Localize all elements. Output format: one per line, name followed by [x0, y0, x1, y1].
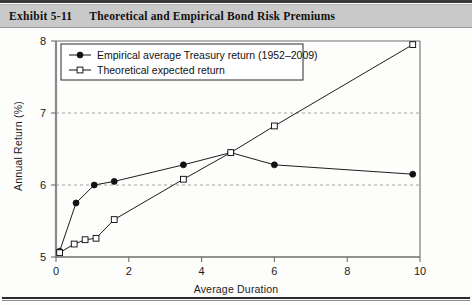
data-point-theoretical-2: [82, 237, 88, 243]
data-point-empirical-7: [410, 171, 416, 177]
x-tick-label-0: 0: [53, 265, 59, 277]
series-line-0: [60, 153, 413, 252]
legend-label-1: Theoretical expected return: [97, 64, 225, 76]
data-point-theoretical-1: [71, 241, 77, 247]
x-axis-title: Average Duration: [0, 283, 472, 295]
data-point-theoretical-5: [181, 176, 187, 182]
x-tick-label-6: 6: [271, 265, 277, 277]
chart-legend: Empirical average Treasury return (1952–…: [61, 44, 318, 80]
data-point-empirical-3: [111, 178, 117, 184]
y-tick-label-6: 6: [40, 179, 46, 191]
y-tick-label-7: 7: [40, 107, 46, 119]
top-divider-rule: [0, 0, 472, 3]
exhibit-figure: Exhibit 5-11 Theoretical and Empirical B…: [0, 0, 472, 305]
exhibit-number-label: Exhibit 5-11: [9, 10, 72, 22]
data-point-theoretical-0: [57, 250, 63, 256]
y-tick-label-8: 8: [40, 35, 46, 47]
x-tick-label-10: 10: [414, 265, 426, 277]
legend-marker-open-square-icon: [77, 67, 83, 73]
data-point-theoretical-6: [228, 150, 234, 156]
y-tick-label-5: 5: [40, 251, 46, 263]
chart-plot-area: 02468105678 Empirical average Treasury r…: [0, 28, 472, 286]
data-point-empirical-1: [73, 200, 79, 206]
x-tick-label-4: 4: [199, 265, 205, 277]
data-point-empirical-4: [180, 162, 186, 168]
data-point-empirical-6: [271, 162, 277, 168]
data-point-theoretical-7: [272, 123, 278, 129]
legend-marker-filled-circle-icon: [77, 52, 83, 58]
exhibit-header-bar: Exhibit 5-11 Theoretical and Empirical B…: [0, 4, 472, 28]
data-point-theoretical-8: [410, 42, 416, 48]
legend-label-0: Empirical average Treasury return (1952–…: [97, 49, 318, 61]
data-point-theoretical-4: [111, 217, 117, 223]
chart-svg: 02468105678 Empirical average Treasury r…: [0, 28, 472, 286]
bottom-divider-rule-secondary: [2, 300, 470, 301]
exhibit-title: Theoretical and Empirical Bond Risk Prem…: [89, 10, 335, 22]
x-tick-label-8: 8: [344, 265, 350, 277]
x-tick-label-2: 2: [126, 265, 132, 277]
bottom-divider-rule: [2, 297, 470, 299]
y-axis-title: Annual Return (%): [12, 76, 24, 216]
data-point-empirical-2: [91, 182, 97, 188]
data-point-theoretical-3: [93, 235, 99, 241]
gridlines-group: [56, 113, 420, 185]
